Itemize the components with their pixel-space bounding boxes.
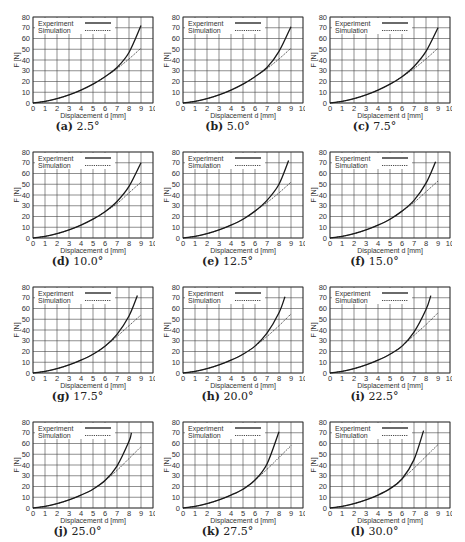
- caption-value: 7.5°: [370, 120, 397, 133]
- svg-text:9: 9: [139, 374, 143, 383]
- legend: ExperimentSimulation: [35, 288, 115, 304]
- svg-text:20: 20: [319, 482, 327, 491]
- svg-text:9: 9: [436, 509, 440, 518]
- svg-text:70: 70: [172, 158, 180, 167]
- svg-text:0: 0: [31, 239, 35, 248]
- svg-text:20: 20: [319, 77, 327, 86]
- svg-text:50: 50: [172, 315, 180, 324]
- legend-label: Simulation: [38, 162, 71, 169]
- svg-text:50: 50: [172, 45, 180, 54]
- legend-label: Simulation: [335, 297, 368, 304]
- svg-text:8: 8: [127, 509, 131, 518]
- svg-text:10: 10: [319, 223, 327, 232]
- svg-text:9: 9: [139, 509, 143, 518]
- svg-text:30: 30: [319, 66, 327, 75]
- series-simulation: [183, 314, 291, 373]
- svg-text:1: 1: [43, 104, 47, 113]
- chart-caption: (a) 2.5°: [0, 120, 155, 133]
- chart-panel-h: 01234567891001020304050607080Displacemen…: [150, 270, 305, 405]
- chart-panel-f: 01234567891001020304050607080Displacemen…: [297, 135, 452, 270]
- svg-text:8: 8: [127, 374, 131, 383]
- chart-svg: 01234567891001020304050607080Displacemen…: [0, 405, 155, 540]
- x-axis-label: Displacement d [mm]: [60, 382, 126, 390]
- legend: ExperimentSimulation: [35, 18, 115, 34]
- svg-text:20: 20: [22, 212, 30, 221]
- legend: ExperimentSimulation: [332, 18, 412, 34]
- caption-value: 5.0°: [223, 120, 250, 133]
- svg-text:9: 9: [436, 239, 440, 248]
- svg-text:9: 9: [289, 374, 293, 383]
- chart-panel-a: 01234567891001020304050607080Displacemen…: [0, 0, 155, 135]
- legend: ExperimentSimulation: [35, 153, 115, 169]
- svg-text:8: 8: [424, 104, 428, 113]
- svg-text:0: 0: [26, 504, 30, 513]
- svg-text:30: 30: [172, 336, 180, 345]
- x-axis-label: Displacement d [mm]: [210, 112, 276, 120]
- svg-text:10: 10: [22, 88, 30, 97]
- svg-text:1: 1: [193, 104, 197, 113]
- svg-text:80: 80: [319, 418, 327, 427]
- svg-text:40: 40: [319, 461, 327, 470]
- svg-text:60: 60: [319, 34, 327, 43]
- x-axis-label: Displacement d [mm]: [210, 382, 276, 390]
- svg-text:60: 60: [172, 169, 180, 178]
- svg-text:0: 0: [181, 509, 185, 518]
- svg-text:70: 70: [319, 158, 327, 167]
- svg-text:10: 10: [172, 493, 180, 502]
- caption-label: (l): [350, 525, 365, 538]
- svg-text:80: 80: [172, 418, 180, 427]
- svg-text:1: 1: [340, 374, 344, 383]
- svg-text:30: 30: [172, 201, 180, 210]
- svg-text:70: 70: [319, 428, 327, 437]
- svg-text:2: 2: [55, 509, 59, 518]
- svg-text:60: 60: [22, 439, 30, 448]
- svg-text:30: 30: [319, 336, 327, 345]
- x-axis-label: Displacement d [mm]: [210, 247, 276, 255]
- chart-caption: (g) 17.5°: [0, 390, 155, 403]
- chart-svg: 01234567891001020304050607080Displacemen…: [297, 0, 452, 135]
- caption-label: (e): [202, 255, 219, 268]
- svg-text:9: 9: [139, 104, 143, 113]
- series-simulation: [33, 182, 141, 238]
- svg-text:2: 2: [205, 239, 209, 248]
- x-axis-label: Displacement d [mm]: [210, 517, 276, 525]
- legend: ExperimentSimulation: [185, 288, 265, 304]
- x-axis-label: Displacement d [mm]: [60, 517, 126, 525]
- caption-label: (k): [202, 525, 220, 538]
- svg-text:1: 1: [340, 104, 344, 113]
- svg-text:10: 10: [172, 358, 180, 367]
- caption-label: (a): [55, 120, 73, 133]
- svg-text:30: 30: [172, 471, 180, 480]
- svg-text:40: 40: [22, 56, 30, 65]
- chart-panel-j: 01234567891001020304050607080Displacemen…: [0, 405, 155, 540]
- svg-text:30: 30: [22, 336, 30, 345]
- svg-text:8: 8: [127, 104, 131, 113]
- x-axis-label: Displacement d [mm]: [357, 382, 423, 390]
- svg-text:50: 50: [319, 450, 327, 459]
- series-experiment: [330, 431, 424, 508]
- svg-text:20: 20: [172, 347, 180, 356]
- svg-text:9: 9: [436, 104, 440, 113]
- svg-text:40: 40: [319, 56, 327, 65]
- svg-text:1: 1: [43, 374, 47, 383]
- svg-text:70: 70: [22, 23, 30, 32]
- series-simulation: [33, 48, 141, 103]
- chart-svg: 01234567891001020304050607080Displacemen…: [150, 135, 305, 270]
- chart-svg: 01234567891001020304050607080Displacemen…: [297, 135, 452, 270]
- chart-caption: (j) 25.0°: [0, 525, 155, 538]
- caption-value: 27.5°: [220, 525, 254, 538]
- series-experiment: [183, 27, 291, 103]
- chart-caption: (h) 20.0°: [150, 390, 305, 403]
- svg-text:10: 10: [22, 358, 30, 367]
- y-axis-label: F [N]: [310, 52, 318, 67]
- svg-text:2: 2: [205, 374, 209, 383]
- svg-text:1: 1: [43, 239, 47, 248]
- caption-value: 12.5°: [219, 255, 253, 268]
- legend-label: Simulation: [38, 432, 71, 439]
- y-axis-label: F [N]: [13, 457, 21, 472]
- svg-text:50: 50: [172, 180, 180, 189]
- svg-text:9: 9: [139, 239, 143, 248]
- caption-value: 10.0°: [70, 255, 104, 268]
- chart-panel-c: 01234567891001020304050607080Displacemen…: [297, 0, 452, 135]
- svg-text:0: 0: [328, 509, 332, 518]
